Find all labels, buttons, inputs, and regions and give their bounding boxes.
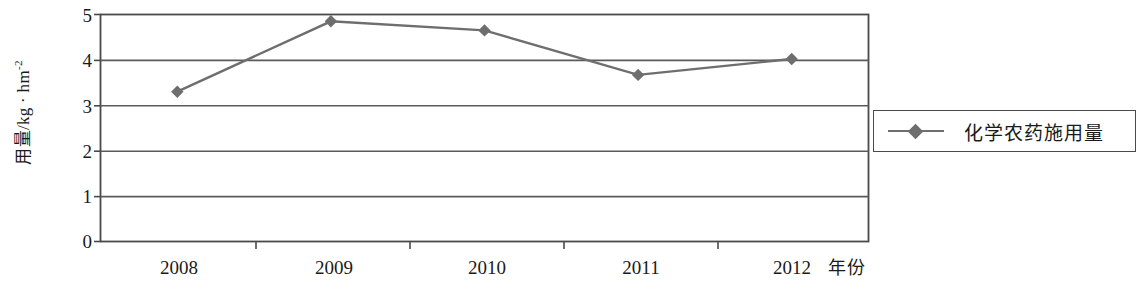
y-axis-ticks <box>94 15 101 242</box>
plot-frame <box>101 15 869 242</box>
x-axis-ticks <box>256 242 718 250</box>
legend-entry-chemical-pesticide[interactable]: 化学农药施用量 <box>874 111 1135 151</box>
diamond-marker-icon <box>888 124 944 138</box>
legend-entry-label: 化学农药施用量 <box>964 118 1104 145</box>
legend: 化学农药施用量 <box>873 110 1136 152</box>
chart-figure: 用量/kg · hm-2 5 4 3 2 1 0 2008 2009 2010 … <box>0 0 1144 298</box>
